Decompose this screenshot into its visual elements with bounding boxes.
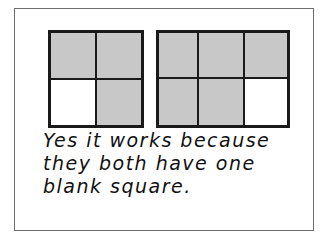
- right-grid-2x3: [156, 30, 290, 128]
- left-grid-2x2: [48, 30, 144, 128]
- figure-frame: Yes it works because they both have one …: [14, 8, 314, 231]
- grid-cell-shaded: [96, 32, 142, 79]
- grid-cell-shaded: [198, 32, 244, 78]
- grid-cell-shaded: [96, 79, 142, 126]
- grid-cell-shaded: [158, 78, 198, 126]
- grid-cell-blank: [50, 79, 96, 126]
- caption-line-2: they both have one: [43, 152, 313, 175]
- grid-cell-shaded: [244, 32, 288, 78]
- grid-cell-shaded: [198, 78, 244, 126]
- grid-cell-blank: [244, 78, 288, 126]
- handwritten-caption: Yes it works because they both have one …: [43, 129, 313, 198]
- grid-cell-shaded: [158, 32, 198, 78]
- grid-cell-shaded: [50, 32, 96, 79]
- caption-line-3: blank square.: [43, 175, 313, 198]
- caption-line-1: Yes it works because: [43, 129, 313, 152]
